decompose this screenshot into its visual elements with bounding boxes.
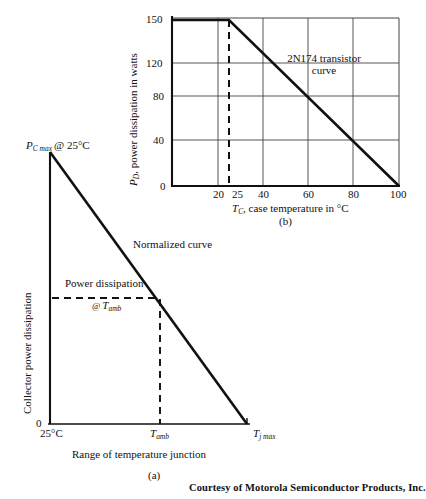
panel-a-power-dissipation-label-line2: @Tamb [92, 300, 121, 313]
panel-a-xtick-tjmax-subscript: j max [259, 432, 275, 441]
panel-b-x-axis-title-text: , case temperature in °C [243, 202, 349, 214]
panel-b-xtick-20: 20 [213, 189, 224, 200]
panel-b-y-axis-title: PD, power dissipation in watts [128, 53, 141, 186]
panel-b-xtick-100: 100 [390, 189, 407, 200]
panel-b-curve [173, 20, 399, 186]
panel-a-peak-label-symbol: P [26, 139, 33, 151]
panel-b-xtick-80: 80 [348, 189, 359, 200]
panel-b-xtick-25: 25 [232, 189, 243, 200]
panel-a-xtick-tamb: Tamb [150, 428, 169, 441]
panel-a-xtick-tjmax: Tj max [253, 428, 276, 441]
panel-b-gridlines [172, 18, 399, 186]
panel-a-peak-label-rest: @ 25°C [54, 139, 90, 151]
panel-b-ytick-150: 150 [146, 14, 163, 25]
panel-a-curve-label: Normalized curve [133, 239, 212, 250]
panel-a-xtick-25c: 25°C [40, 428, 63, 439]
panel-b-ytick-120: 120 [146, 58, 163, 69]
panel-b-curve-annotation-line1: 2N174 transistor [276, 53, 372, 64]
panel-b-graphics [171, 16, 400, 187]
panel-a-peak-label-subscript: C max [33, 144, 52, 153]
panel-a-x-axis-title: Range of temperature junction [72, 449, 206, 460]
panel-b-id: (b) [279, 216, 292, 227]
panel-b-y-axis-title-text: , power dissipation in watts [127, 53, 139, 174]
panel-b-x-axis-title: TC, case temperature in °C [232, 203, 349, 216]
panel-a-power-dissipation-label-line1: Power dissipation [65, 278, 144, 289]
panel-b-ytick-80: 80 [153, 91, 164, 102]
panel-b-y-axis-symbol: P [127, 179, 139, 186]
panel-a-pd-at-symbol: @ [92, 301, 100, 311]
panel-a-y-axis-title: Collector power dissipation [22, 292, 33, 414]
panel-b-ytick-0: 0 [160, 181, 166, 192]
panel-b-y-axis-symbol-subscript: D [132, 174, 141, 179]
panel-a-id: (a) [148, 470, 160, 481]
panel-b-xtick-40: 40 [258, 189, 269, 200]
panel-b-curve-annotation: 2N174 transistor curve [276, 53, 372, 76]
panel-a-xtick-tamb-subscript: amb [156, 432, 169, 441]
panel-b-ytick-40: 40 [153, 135, 164, 146]
panel-b-xtick-60: 60 [303, 189, 314, 200]
figure-credit: Courtesy of Motorola Semiconductor Produ… [189, 482, 426, 493]
panel-b-curve-annotation-line2: curve [276, 65, 372, 76]
panel-a-pd-temp-subscript: amb [108, 304, 121, 313]
panel-a-peak-label: PC max@ 25°C [26, 140, 90, 153]
